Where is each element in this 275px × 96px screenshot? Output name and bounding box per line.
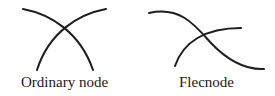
flecnode-label: Flecnode <box>179 75 234 90</box>
ordinary-node-figure <box>23 9 106 70</box>
flecnode-inflection-branch <box>149 12 264 70</box>
ordinary-node-label: Ordinary node <box>21 75 108 90</box>
flecnode-figure <box>149 12 264 70</box>
ordinary-node-branch-1 <box>23 9 93 70</box>
